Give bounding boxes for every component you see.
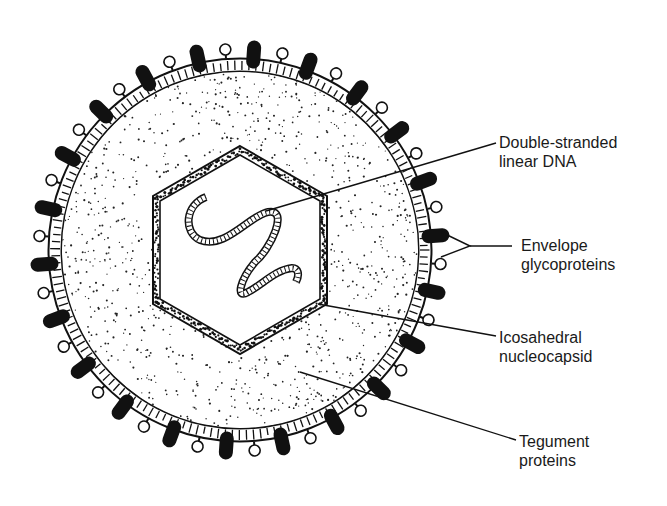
- knob-glycoprotein: [219, 44, 231, 59]
- label-double-stranded-dna: Double-stranded linear DNA: [499, 133, 617, 171]
- spike-glycoprotein: [30, 256, 59, 272]
- label-tegument-proteins: Tegument proteins: [519, 432, 589, 470]
- knob-glycoprotein: [431, 258, 446, 270]
- knob-glycoprotein: [426, 200, 443, 214]
- knob-glycoprotein: [37, 286, 54, 300]
- spike-glycoprotein: [421, 228, 450, 244]
- knob-glycoprotein: [275, 47, 289, 63]
- spike-glycoprotein: [246, 40, 262, 69]
- spike-glycoprotein: [218, 431, 234, 460]
- label-envelope-glycoproteins: Envelope glycoproteins: [521, 236, 615, 274]
- label-icosahedral-nucleocapsid: Icosahedral nucleocapsid: [499, 328, 592, 366]
- knob-glycoprotein: [34, 230, 49, 242]
- knob-glycoprotein: [191, 437, 205, 453]
- knob-glycoprotein: [249, 441, 261, 456]
